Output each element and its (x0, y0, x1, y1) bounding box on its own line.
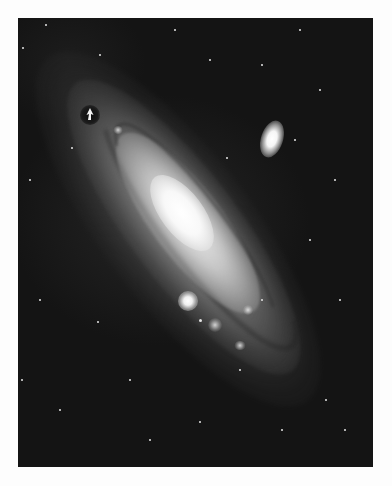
star (261, 299, 263, 301)
star (29, 179, 31, 181)
star (226, 157, 228, 159)
star-cloud (234, 341, 246, 350)
galaxy-photograph (18, 18, 373, 467)
star (209, 59, 211, 61)
star (239, 369, 241, 371)
star (199, 319, 202, 322)
arrow-icon (85, 107, 95, 121)
star (319, 89, 321, 91)
star (99, 54, 101, 56)
star (21, 379, 23, 381)
marker (80, 105, 100, 125)
star (325, 399, 327, 401)
companion-galaxy-m32 (178, 291, 198, 311)
star-cloud (208, 318, 222, 332)
star-cloud (243, 305, 253, 315)
page (0, 0, 392, 486)
star (149, 439, 151, 441)
star (129, 379, 131, 381)
star (199, 421, 201, 423)
andromeda-galaxy (18, 18, 373, 467)
star (294, 139, 296, 141)
star-cloud (113, 126, 123, 134)
star (309, 239, 311, 241)
star (174, 29, 176, 31)
